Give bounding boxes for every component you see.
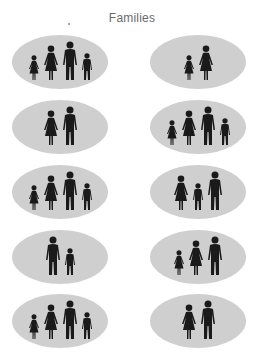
girl-icon (166, 120, 178, 146)
woman-icon (198, 45, 214, 81)
woman-icon (173, 175, 189, 211)
family-oval-1 (12, 35, 108, 89)
woman-icon (43, 304, 59, 340)
man-icon (62, 171, 78, 211)
girl-icon (183, 55, 195, 81)
man-icon (207, 236, 223, 276)
boy-icon (81, 183, 93, 211)
family-oval-9 (12, 294, 108, 348)
girl-icon (28, 185, 40, 211)
family-oval-5 (12, 165, 108, 219)
family-oval-8 (150, 230, 246, 284)
family-oval-10 (150, 294, 246, 348)
man-icon (207, 171, 223, 211)
man-icon (200, 300, 216, 340)
boy-icon (81, 312, 93, 340)
man-icon (45, 236, 61, 276)
boy-icon (192, 183, 204, 211)
woman-icon (181, 304, 197, 340)
woman-icon (43, 175, 59, 211)
family-oval-4 (150, 100, 246, 154)
woman-icon (181, 110, 197, 146)
girl-icon (173, 250, 185, 276)
boy-icon (81, 53, 93, 81)
girl-icon (28, 314, 40, 340)
stray-dot (68, 23, 70, 25)
family-oval-6 (150, 165, 246, 219)
family-oval-3 (12, 100, 108, 154)
man-icon (62, 106, 78, 146)
family-oval-2 (150, 35, 246, 89)
man-icon (62, 300, 78, 340)
page-title: Families (0, 11, 264, 25)
woman-icon (43, 45, 59, 81)
girl-icon (28, 55, 40, 81)
woman-icon (43, 110, 59, 146)
man-icon (200, 106, 216, 146)
boy-icon (64, 248, 76, 276)
family-oval-7 (12, 230, 108, 284)
man-icon (62, 41, 78, 81)
boy-icon (219, 118, 231, 146)
woman-icon (188, 240, 204, 276)
